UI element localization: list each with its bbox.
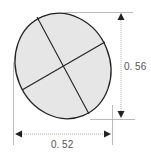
- height-dimension: 0. 56: [118, 13, 147, 118]
- ellipse-dimension-diagram: 0. 56 0. 52: [0, 0, 151, 158]
- width-dimension: 0. 52: [15, 131, 111, 151]
- arrow-left-icon: [15, 131, 22, 138]
- height-dimension-label: 0. 56: [124, 61, 147, 72]
- width-dimension-label: 0. 52: [51, 139, 74, 150]
- arrow-down-icon: [118, 111, 125, 118]
- arrow-up-icon: [118, 13, 125, 20]
- arrow-right-icon: [104, 131, 111, 138]
